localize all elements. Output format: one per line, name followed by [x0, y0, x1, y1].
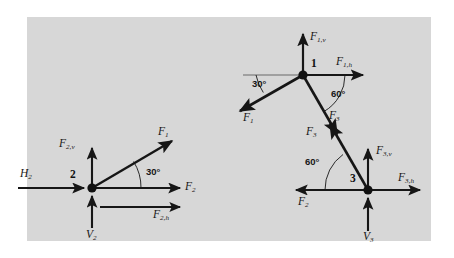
label-f3h: F3,h: [398, 172, 414, 185]
label-f2v: F2,v: [59, 138, 75, 151]
joint-2-dot: [87, 183, 96, 192]
label-force-f2: F2: [185, 181, 196, 194]
angle-label-joint1-right: 60°: [331, 88, 345, 99]
vector-layer: [0, 0, 454, 258]
arrow-force-f1: [92, 141, 172, 188]
label-member-f3-lower: F3: [306, 126, 317, 139]
label-f1v: F1,v: [310, 31, 326, 44]
arrow-member-f3-from-3: [330, 124, 368, 190]
label-member-f3-upper: F3: [329, 110, 340, 123]
angle-arc-joint3: [325, 155, 343, 191]
angle-arc-joint2: [134, 162, 141, 189]
label-reaction-h2: H2: [20, 168, 32, 181]
arrow-member-f1: [240, 75, 303, 111]
label-member-f1: F1: [243, 112, 254, 125]
angle-label-joint3: 60°: [305, 156, 319, 167]
label-f1h: F1,h: [336, 56, 352, 69]
label-reaction-v3: V3: [363, 231, 374, 244]
figure-canvas: H2 2 F2,v V2 F2 F2,h F1 30° 1 F1,v F1,h …: [0, 0, 454, 258]
angle-label-joint1-left: 30°: [252, 78, 266, 89]
angle-label-joint2: 30°: [146, 166, 160, 177]
label-f3v: F3,v: [376, 145, 392, 158]
label-force-f1-at-2: F1: [158, 126, 169, 139]
joint-3-dot: [363, 185, 372, 194]
label-force-f2-at-3: F2: [298, 196, 309, 209]
joint-2-number: 2: [70, 168, 76, 180]
label-reaction-v2: V2: [86, 229, 97, 242]
label-f2h: F2,h: [153, 209, 169, 222]
joint-1-number: 1: [311, 57, 317, 69]
joint-3-number: 3: [350, 172, 356, 184]
joint-1-dot: [298, 70, 307, 79]
